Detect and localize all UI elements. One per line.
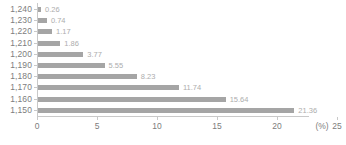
bar-chart: 1,2400.261,2300.741,2201.171,2101.861,20… <box>0 0 346 145</box>
category-label: 1,180 <box>0 71 32 82</box>
y-axis-tick <box>34 54 37 55</box>
bar-row: 1,17011.74 <box>0 82 346 93</box>
bar-value-label: 5.55 <box>109 60 124 71</box>
category-label: 1,220 <box>0 26 32 37</box>
bar-value-label: 0.26 <box>45 4 60 15</box>
bar-row: 1,16015.64 <box>0 94 346 105</box>
category-label: 1,190 <box>0 60 32 71</box>
bar <box>38 29 52 34</box>
bar-value-label: 8.23 <box>141 71 156 82</box>
category-label: 1,160 <box>0 94 32 105</box>
x-axis-tick <box>157 117 158 120</box>
bar <box>38 41 60 46</box>
y-axis-tick <box>34 76 37 77</box>
bar-value-label: 1.17 <box>56 26 71 37</box>
bar <box>38 18 47 23</box>
y-axis-tick <box>34 110 37 111</box>
y-axis-tick <box>34 43 37 44</box>
bar <box>38 85 179 90</box>
x-axis-tick <box>337 117 338 120</box>
bar-value-label: 15.64 <box>230 94 249 105</box>
category-label: 1,150 <box>0 105 32 116</box>
bar-value-label: 21.36 <box>298 105 317 116</box>
y-axis-tick <box>34 65 37 66</box>
bar <box>38 52 83 57</box>
x-axis-tick-label: 0 <box>35 121 40 131</box>
bar-row: 1,2003.77 <box>0 49 346 60</box>
bar <box>38 108 294 113</box>
x-axis-unit-label: (%) <box>315 121 328 131</box>
y-axis-tick <box>34 9 37 10</box>
bar-row: 1,2300.74 <box>0 15 346 26</box>
x-axis-tick <box>97 117 98 120</box>
plot-area: 1,2400.261,2300.741,2201.171,2101.861,20… <box>0 0 346 118</box>
bar-row: 1,2101.86 <box>0 38 346 49</box>
x-axis-tick-label: 10 <box>152 121 161 131</box>
bar-value-label: 3.77 <box>87 49 102 60</box>
bar-row: 1,2201.17 <box>0 26 346 37</box>
bar-row: 1,15021.36 <box>0 105 346 116</box>
x-axis-tick-label: 20 <box>272 121 281 131</box>
y-axis-tick <box>34 31 37 32</box>
y-axis-tick <box>34 20 37 21</box>
x-axis-tick <box>217 117 218 120</box>
bar-value-label: 1.86 <box>64 38 79 49</box>
x-axis-tick-label: 25 <box>332 121 341 131</box>
bar-row: 1,2400.26 <box>0 4 346 15</box>
category-label: 1,240 <box>0 4 32 15</box>
bar-value-label: 11.74 <box>183 82 201 93</box>
bar-value-label: 0.74 <box>51 15 66 26</box>
y-axis-tick <box>34 87 37 88</box>
x-axis-tick-label: 15 <box>212 121 221 131</box>
x-axis-line <box>37 116 309 117</box>
x-axis-tick <box>37 117 38 120</box>
bar <box>38 7 41 12</box>
bar <box>38 63 105 68</box>
bar <box>38 97 226 102</box>
bar <box>38 74 137 79</box>
y-axis-tick <box>34 99 37 100</box>
x-axis-tick-label: 5 <box>95 121 100 131</box>
bar-row: 1,1808.23 <box>0 71 346 82</box>
x-axis-tick <box>277 117 278 120</box>
category-label: 1,170 <box>0 82 32 93</box>
bar-row: 1,1905.55 <box>0 60 346 71</box>
category-label: 1,210 <box>0 38 32 49</box>
category-label: 1,200 <box>0 49 32 60</box>
category-label: 1,230 <box>0 15 32 26</box>
